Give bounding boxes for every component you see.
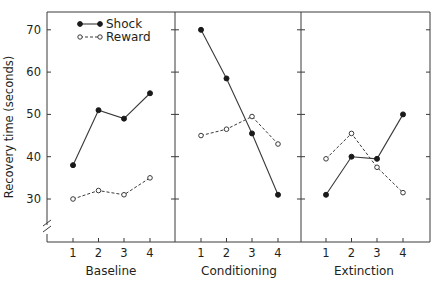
filled-circle-icon — [276, 192, 281, 197]
y-axis-label: Recovery time (seconds) — [2, 56, 16, 199]
x-tick-label: 4 — [146, 246, 153, 260]
y-tick-label-50: 50 — [26, 107, 41, 121]
x-tick-label: 3 — [373, 246, 380, 260]
legend-item-shock: Shock — [78, 17, 143, 31]
open-circle-icon — [401, 190, 406, 195]
filled-circle-icon — [349, 154, 354, 159]
filled-circle-icon — [199, 27, 204, 32]
y-tick-label-60: 60 — [26, 65, 41, 79]
open-circle-icon — [276, 142, 281, 147]
filled-circle-icon — [324, 192, 329, 197]
open-circle-icon — [71, 197, 76, 202]
open-circle-icon — [122, 192, 127, 197]
x-tick-label: 4 — [399, 246, 406, 260]
x-tick-label: 3 — [248, 246, 255, 260]
chart-canvas: 70 60 50 40 30 Recovery time (seconds) S… — [0, 0, 440, 286]
panel-baseline: 1234Baseline — [69, 91, 153, 278]
chart: 70 60 50 40 30 Recovery time (seconds) S… — [0, 0, 440, 286]
x-tick-label: 1 — [69, 246, 76, 260]
x-tick-label: 4 — [274, 246, 281, 260]
filled-circle-icon — [148, 91, 153, 96]
panel-label: Conditioning — [201, 264, 277, 278]
y-ticks — [47, 30, 430, 199]
filled-circle-icon — [401, 112, 406, 117]
filled-circle-icon — [224, 76, 229, 81]
x-tick-label: 2 — [223, 246, 230, 260]
panel-label: Extinction — [334, 264, 394, 278]
filled-circle-icon — [98, 22, 103, 27]
open-circle-icon — [250, 114, 255, 119]
filled-circle-icon — [375, 156, 380, 161]
panel-conditioning: 1234Conditioning — [197, 27, 281, 278]
x-tick-label: 2 — [348, 246, 355, 260]
x-tick-label: 1 — [197, 246, 204, 260]
reward-series-line — [326, 133, 403, 192]
x-tick-label: 1 — [322, 246, 329, 260]
open-circle-icon — [224, 127, 229, 132]
filled-circle-icon — [78, 22, 83, 27]
panels: 1234Baseline1234Conditioning1234Extincti… — [69, 27, 406, 278]
y-tick-label-40: 40 — [26, 150, 41, 164]
shock-series-line — [326, 114, 403, 194]
shock-series-line — [73, 93, 150, 165]
filled-circle-icon — [71, 163, 76, 168]
y-tick-labels: 70 60 50 40 30 — [26, 23, 41, 206]
y-tick-label-30: 30 — [26, 192, 41, 206]
open-circle-icon — [199, 133, 204, 138]
open-circle-icon — [375, 165, 380, 170]
open-circle-icon — [96, 188, 101, 193]
open-circle-icon — [148, 176, 153, 181]
plot-frame — [43, 12, 430, 242]
y-tick-label-70: 70 — [26, 23, 41, 37]
open-circle-icon — [349, 131, 354, 136]
panel-label: Baseline — [86, 264, 137, 278]
filled-circle-icon — [122, 116, 127, 121]
shock-series-line — [201, 30, 278, 195]
legend-label-reward: Reward — [106, 30, 151, 44]
legend: Shock Reward — [78, 17, 151, 44]
legend-label-shock: Shock — [106, 17, 142, 31]
panel-extinction: 1234Extinction — [322, 112, 406, 278]
filled-circle-icon — [250, 131, 255, 136]
open-circle-icon — [324, 157, 329, 162]
filled-circle-icon — [96, 108, 101, 113]
reward-series-line — [73, 178, 150, 199]
open-circle-icon — [98, 35, 102, 39]
open-circle-icon — [78, 35, 82, 39]
legend-item-reward: Reward — [78, 30, 151, 44]
reward-series-line — [201, 117, 278, 144]
x-tick-label: 2 — [95, 246, 102, 260]
axis-break-mark-2 — [43, 226, 51, 232]
x-tick-label: 3 — [120, 246, 127, 260]
